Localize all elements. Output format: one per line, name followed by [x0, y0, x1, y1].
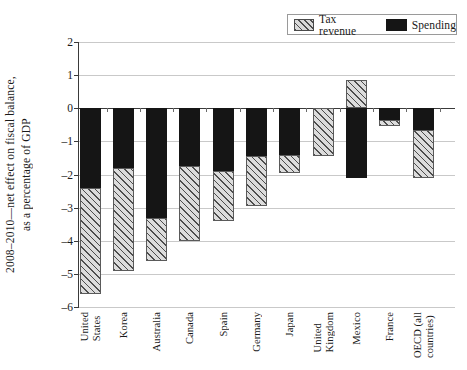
x-axis-category-line: Kingdom — [324, 312, 335, 352]
y-axis-tick-label: –2 — [55, 169, 73, 181]
x-axis-category-line: Spain — [218, 312, 229, 336]
bar-group[interactable] — [313, 42, 334, 307]
bar-group[interactable] — [113, 42, 134, 307]
y-axis-tick — [74, 208, 79, 209]
bar-group[interactable] — [346, 42, 367, 307]
legend-item-spending: Spending — [386, 15, 456, 34]
bar-group[interactable] — [80, 42, 101, 307]
bar-segment-tax-revenue[interactable] — [213, 171, 234, 221]
bar-group[interactable] — [379, 42, 400, 307]
bar-segment-spending[interactable] — [113, 108, 134, 168]
legend-swatch-spending — [386, 19, 407, 31]
y-axis-tick-label: 2 — [55, 36, 73, 48]
bar-segment-spending[interactable] — [279, 108, 300, 154]
bar-segment-spending[interactable] — [213, 108, 234, 171]
y-axis-tick-label: –5 — [55, 268, 73, 280]
y-axis-tick-label: –4 — [55, 235, 73, 247]
x-axis-category-label: Australia — [145, 312, 169, 351]
x-axis-category-line: Mexico — [351, 312, 362, 345]
legend-swatch-tax-revenue — [294, 19, 314, 31]
bar-segment-spending[interactable] — [80, 108, 101, 188]
x-axis-tick — [206, 108, 207, 112]
y-axis-tick-label: 1 — [55, 69, 73, 81]
x-axis-category-line: France — [384, 312, 395, 341]
x-axis-category-label: Japan — [278, 312, 302, 336]
x-axis-category-line: United — [79, 312, 90, 341]
x-axis-category-line: Japan — [284, 312, 295, 336]
x-axis-tick — [173, 108, 174, 112]
chart-legend: Tax revenue Spending — [287, 14, 457, 35]
legend-label-spending: Spending — [412, 19, 456, 31]
bar-segment-tax-revenue[interactable] — [146, 218, 167, 261]
x-axis-tick — [273, 108, 274, 112]
x-axis-tick — [440, 108, 441, 112]
x-axis-category-label: Germany — [245, 312, 269, 352]
bar-segment-spending[interactable] — [146, 108, 167, 217]
bar-segment-tax-revenue[interactable] — [413, 130, 434, 178]
x-axis-tick — [240, 108, 241, 112]
plot-area — [79, 42, 455, 307]
fiscal-balance-bar-chart: Tax revenue Spending 2008–2010—net effec… — [0, 0, 467, 370]
gridline — [79, 307, 455, 308]
x-axis-category-line: Korea — [118, 312, 129, 338]
y-axis-tick — [74, 42, 79, 43]
y-axis-tick-label: –1 — [55, 135, 73, 147]
y-axis-tick — [74, 307, 79, 308]
x-axis-category-label: Korea — [111, 312, 135, 338]
y-axis-tick — [74, 274, 79, 275]
x-axis-category-line: countries) — [424, 312, 435, 358]
x-axis-tick — [306, 108, 307, 112]
x-axis-tick — [107, 108, 108, 112]
x-axis-category-line: Canada — [184, 312, 195, 344]
bar-segment-tax-revenue[interactable] — [279, 155, 300, 173]
y-axis-tick — [74, 75, 79, 76]
x-axis-category-label: UnitedStates — [78, 312, 102, 341]
x-axis-category-label: Mexico — [344, 312, 368, 345]
y-axis-tick — [74, 241, 79, 242]
legend-item-tax-revenue: Tax revenue — [294, 15, 374, 34]
x-axis-category-line: Germany — [251, 312, 262, 352]
x-axis-category-line: States — [91, 312, 102, 341]
bar-group[interactable] — [279, 42, 300, 307]
bar-group[interactable] — [146, 42, 167, 307]
y-axis-tick — [74, 141, 79, 142]
y-axis-tick — [74, 175, 79, 176]
bar-segment-spending[interactable] — [346, 108, 367, 178]
x-axis-tick — [373, 108, 374, 112]
x-axis-category-label: France — [378, 312, 402, 341]
x-axis-category-label: Spain — [211, 312, 235, 336]
y-axis-tick-label: 0 — [55, 102, 73, 114]
bar-segment-spending[interactable] — [246, 108, 267, 156]
bar-segment-tax-revenue[interactable] — [379, 120, 400, 127]
bar-segment-tax-revenue[interactable] — [113, 168, 134, 271]
bar-segment-spending[interactable] — [413, 108, 434, 130]
x-axis-category-line: United — [312, 312, 323, 352]
bar-segment-tax-revenue[interactable] — [179, 166, 200, 241]
x-axis-tick — [406, 108, 407, 112]
bar-group[interactable] — [246, 42, 267, 307]
x-axis-category-label: Canada — [178, 312, 202, 344]
bar-group[interactable] — [413, 42, 434, 307]
y-axis-tick-label: –6 — [55, 301, 73, 313]
x-axis-category-label: UnitedKingdom — [311, 312, 335, 352]
y-axis-tick — [74, 108, 79, 109]
bar-segment-tax-revenue[interactable] — [246, 156, 267, 206]
bar-segment-tax-revenue[interactable] — [346, 80, 367, 108]
bar-group[interactable] — [179, 42, 200, 307]
bar-segment-spending[interactable] — [379, 108, 400, 120]
y-axis-tick-label: –3 — [55, 202, 73, 214]
x-axis-tick — [140, 108, 141, 112]
legend-label-tax-revenue: Tax revenue — [319, 13, 374, 37]
x-axis-category-label: OECD (allcountries) — [411, 312, 435, 358]
x-axis-tick — [340, 108, 341, 112]
x-axis-category-line: Australia — [151, 312, 162, 351]
x-axis-category-line: OECD (all — [412, 312, 423, 358]
bar-group[interactable] — [213, 42, 234, 307]
bar-segment-tax-revenue[interactable] — [313, 108, 334, 156]
bar-segment-spending[interactable] — [179, 108, 200, 166]
bar-segment-tax-revenue[interactable] — [80, 188, 101, 294]
